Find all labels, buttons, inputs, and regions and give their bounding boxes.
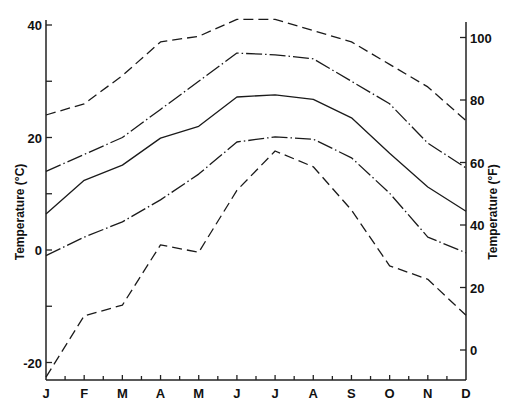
right-tick-label: 80 [470,93,484,108]
y-axis-title-left: Temperature (°C) [13,164,27,261]
left-tick-label: 20 [28,131,42,146]
x-tick-label: F [80,386,88,401]
right-tick-label: 0 [470,343,477,358]
x-tick-label: M [117,386,128,401]
temperature-chart: 40200-20 100806040200 JFMAMJJASOND Tempe… [0,0,513,407]
left-tick-label: 0 [35,243,42,258]
series-line-0 [46,19,466,120]
x-tick-label: A [309,386,319,401]
right-tick-label: 40 [470,218,484,233]
x-tick-label: A [156,386,166,401]
series-line-1 [46,53,466,171]
x-tick-label: D [461,386,470,401]
x-tick-label: O [385,386,395,401]
x-tick-label: J [233,386,240,401]
series-line-4 [46,151,466,377]
x-ticks: JFMAMJJASOND [42,375,470,401]
right-tick-label: 60 [470,156,484,171]
y-axis-title-right: Temperature (°F) [486,164,500,259]
x-tick-label: N [423,386,432,401]
x-tick-label: S [347,386,356,401]
series-group [46,19,466,377]
left-ticks: 40200-20 [23,18,52,371]
right-tick-label: 20 [470,281,484,296]
axes [46,20,466,380]
series-line-3 [46,137,466,256]
x-tick-label: M [193,386,204,401]
x-tick-label: J [271,386,278,401]
left-tick-label: -20 [23,356,42,371]
x-tick-label: J [42,386,49,401]
series-line-2 [46,95,466,214]
left-tick-label: 40 [28,18,42,33]
right-tick-label: 100 [470,31,492,46]
